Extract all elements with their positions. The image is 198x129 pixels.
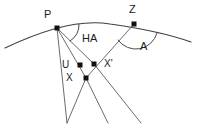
horizon-arc	[5, 23, 191, 48]
point-marker-z	[132, 22, 137, 27]
label-x-point: X	[66, 73, 73, 83]
label-x-prime-point: X'	[104, 59, 113, 69]
point-marker-u	[78, 63, 83, 68]
label-hour-angle: HA	[82, 33, 97, 44]
point-marker-x-prime	[92, 62, 97, 67]
hour-angle-arc	[70, 24, 79, 41]
label-u-point: U	[62, 60, 69, 70]
diagram-canvas: P Z HA A U X' X	[0, 0, 198, 129]
label-azimuth: A	[140, 41, 147, 52]
point-marker-x	[84, 76, 89, 81]
diagram-svg	[0, 0, 198, 129]
point-marker-p	[55, 26, 60, 31]
ray-x-downward	[86, 78, 108, 123]
label-pole: P	[44, 9, 51, 20]
label-zenith: Z	[129, 4, 136, 15]
